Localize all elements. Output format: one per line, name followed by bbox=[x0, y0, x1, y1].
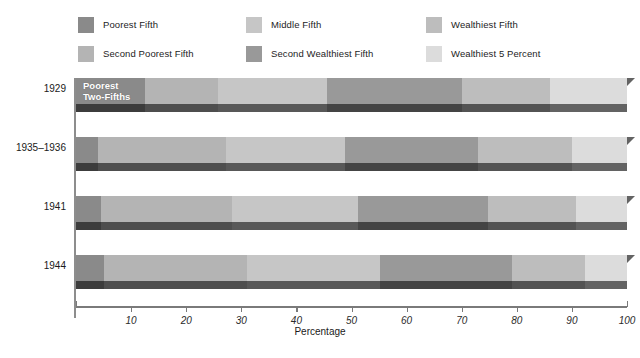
legend-label: Wealthiest Fifth bbox=[451, 19, 518, 30]
bar-row[interactable]: 1935–1936 bbox=[76, 137, 627, 171]
bar-segment-bevel bbox=[247, 281, 380, 289]
bar-segment[interactable] bbox=[104, 255, 247, 281]
bar-segment-bevel bbox=[585, 281, 627, 289]
bar-segment[interactable] bbox=[550, 78, 627, 104]
bar-segment[interactable] bbox=[512, 255, 585, 281]
bar-segment[interactable] bbox=[327, 78, 462, 104]
bar-segment[interactable] bbox=[218, 78, 327, 104]
bar-segment-bevel bbox=[327, 104, 462, 112]
bar-row-label: 1929 bbox=[44, 83, 66, 94]
x-axis-tick bbox=[186, 306, 187, 312]
bar-segment-bevel bbox=[462, 104, 550, 112]
bar-segment-bevel bbox=[76, 104, 145, 112]
bar-segment-bevel bbox=[512, 281, 585, 289]
bar-stack bbox=[76, 255, 627, 281]
bar-segment[interactable] bbox=[345, 137, 478, 163]
bar-segment[interactable] bbox=[380, 255, 512, 281]
legend-item[interactable]: Wealthiest Fifth bbox=[426, 17, 606, 33]
bar-segment[interactable] bbox=[76, 78, 145, 104]
bar-segment[interactable] bbox=[76, 255, 104, 281]
x-axis-tick bbox=[131, 306, 132, 312]
x-axis-tick bbox=[296, 306, 297, 312]
bar-segment[interactable] bbox=[145, 78, 218, 104]
legend-swatch-icon bbox=[246, 17, 262, 33]
bar-row[interactable]: 1941 bbox=[76, 196, 627, 230]
bar-segment-bevel bbox=[345, 163, 478, 171]
x-axis-tick-label: 20 bbox=[181, 315, 192, 326]
legend-swatch-icon bbox=[426, 17, 442, 33]
bar-segment-bevel bbox=[550, 104, 627, 112]
bar-segment-bevel bbox=[76, 163, 98, 171]
bar-segment-bevel bbox=[218, 104, 327, 112]
bar-segment-bevel bbox=[76, 222, 101, 230]
bar-segment-bevel bbox=[76, 281, 104, 289]
bar-segment-bevel bbox=[232, 222, 358, 230]
x-axis-tick-label: 30 bbox=[236, 315, 247, 326]
bar-segment-bevel bbox=[478, 163, 572, 171]
bar-base-bevel bbox=[76, 222, 627, 230]
bar-end-cap bbox=[627, 78, 635, 112]
bar-segment[interactable] bbox=[101, 196, 232, 222]
bar-segment[interactable] bbox=[76, 196, 101, 222]
legend-item[interactable]: Second Wealthiest Fifth bbox=[246, 46, 426, 62]
bar-segment[interactable] bbox=[232, 196, 358, 222]
bar-segment[interactable] bbox=[358, 196, 488, 222]
bar-segment[interactable] bbox=[226, 137, 345, 163]
x-axis-tick-label: 100 bbox=[619, 315, 636, 326]
legend-swatch-icon bbox=[78, 17, 94, 33]
x-axis-title: Percentage bbox=[0, 326, 640, 337]
bar-segment-bevel bbox=[576, 222, 627, 230]
bar-segment[interactable] bbox=[462, 78, 550, 104]
x-axis-tick bbox=[627, 301, 628, 307]
bar-segment[interactable] bbox=[98, 137, 226, 163]
x-axis-tick-label: 40 bbox=[291, 315, 302, 326]
bar-segment-bevel bbox=[101, 222, 232, 230]
bar-segment-bevel bbox=[488, 222, 576, 230]
legend-label: Wealthiest 5 Percent bbox=[451, 48, 540, 59]
legend-swatch-icon bbox=[246, 46, 262, 62]
legend-swatch-icon bbox=[78, 46, 94, 62]
x-axis-line: 102030405060708090100 bbox=[76, 306, 627, 308]
x-axis-tick-label: 80 bbox=[511, 315, 522, 326]
x-axis-tick-label: 60 bbox=[401, 315, 412, 326]
x-axis-tick bbox=[572, 306, 573, 312]
x-axis-tick bbox=[517, 306, 518, 312]
x-axis-tick-label: 90 bbox=[566, 315, 577, 326]
bar-segment[interactable] bbox=[247, 255, 380, 281]
bar-base-bevel bbox=[76, 281, 627, 289]
bar-segment[interactable] bbox=[76, 137, 98, 163]
bar-segment[interactable] bbox=[488, 196, 576, 222]
bar-segment[interactable] bbox=[576, 196, 627, 222]
x-axis-end-cap-left bbox=[76, 301, 77, 307]
x-axis-tick bbox=[352, 306, 353, 312]
bar-row-label: 1935–1936 bbox=[16, 142, 66, 153]
bar-segment-bevel bbox=[104, 281, 247, 289]
bar-segment-bevel bbox=[226, 163, 345, 171]
legend-label: Second Poorest Fifth bbox=[103, 48, 194, 59]
x-axis-tick bbox=[407, 306, 408, 312]
legend-item[interactable]: Middle Fifth bbox=[246, 17, 426, 33]
x-axis-tick-label: 50 bbox=[346, 315, 357, 326]
bar-segment-bevel bbox=[145, 104, 218, 112]
bar-segment-bevel bbox=[98, 163, 226, 171]
bar-end-cap bbox=[627, 196, 635, 230]
bar-segment[interactable] bbox=[478, 137, 572, 163]
bar-segment[interactable] bbox=[585, 255, 627, 281]
bar-row[interactable]: 1944 bbox=[76, 255, 627, 289]
legend-swatch-icon bbox=[426, 46, 442, 62]
bar-segment-bevel bbox=[572, 163, 627, 171]
plot-area: 1929Poorest Two-Fifths1935–193619411944 bbox=[76, 78, 627, 306]
x-axis-tick bbox=[241, 306, 242, 312]
legend-item[interactable]: Second Poorest Fifth bbox=[78, 46, 246, 62]
bar-segment[interactable] bbox=[572, 137, 627, 163]
legend-label: Second Wealthiest Fifth bbox=[271, 48, 373, 59]
bar-row[interactable]: 1929Poorest Two-Fifths bbox=[76, 78, 627, 112]
legend-label: Middle Fifth bbox=[271, 19, 321, 30]
bar-end-cap bbox=[627, 137, 635, 171]
bar-stack bbox=[76, 196, 627, 222]
legend-item[interactable]: Wealthiest 5 Percent bbox=[426, 46, 606, 62]
bar-segment-bevel bbox=[380, 281, 512, 289]
legend-item[interactable]: Poorest Fifth bbox=[78, 17, 246, 33]
bar-row-label: 1941 bbox=[44, 201, 66, 212]
x-axis-tick bbox=[462, 306, 463, 312]
